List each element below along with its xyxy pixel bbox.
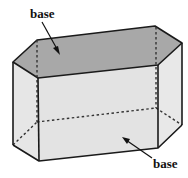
octagonal-prism-diagram: base base (0, 0, 188, 178)
top-base-label: base (30, 6, 55, 21)
prism-figure: base base (0, 0, 188, 178)
bottom-base-label: base (153, 156, 178, 171)
side-face-front (38, 65, 158, 161)
